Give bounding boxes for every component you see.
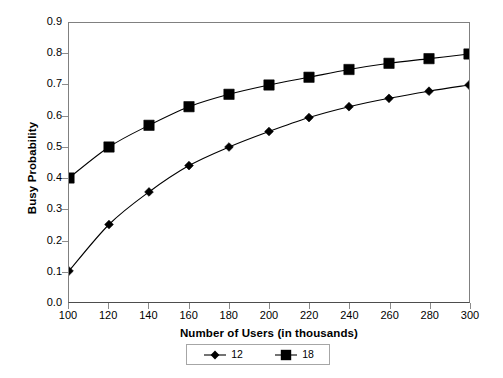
series-line [69, 85, 469, 271]
x-tick-mark [148, 303, 149, 309]
y-tick-label: 0.8 [32, 47, 62, 58]
legend-entry-12: 12 [202, 349, 243, 361]
data-point-marker [384, 58, 394, 68]
x-tick-mark [108, 303, 109, 309]
y-tick-mark [62, 178, 68, 179]
x-tick-mark [229, 303, 230, 309]
y-tick-label: 0.6 [32, 110, 62, 121]
x-axis-title: Number of Users (in thousands) [68, 327, 470, 339]
y-tick-label: 0.9 [32, 16, 62, 27]
x-tick-mark [390, 303, 391, 309]
data-point-marker [184, 102, 194, 112]
x-tick-mark [68, 303, 69, 309]
data-point-marker [385, 94, 394, 103]
data-point-marker [264, 80, 274, 90]
series-12 [69, 81, 469, 276]
legend-entry-18: 18 [273, 349, 314, 361]
y-tick-label: 0.7 [32, 78, 62, 89]
data-point-marker [304, 72, 314, 82]
x-tick-mark [189, 303, 190, 309]
y-tick-mark [62, 147, 68, 148]
series-line [69, 54, 469, 178]
data-point-marker [104, 142, 114, 152]
x-tick-mark [349, 303, 350, 309]
y-tick-label: 0.2 [32, 235, 62, 246]
square-marker-icon [273, 349, 299, 361]
y-axis-tick-labels: 0.90.80.70.60.50.40.30.20.10.0 [30, 0, 62, 378]
y-tick-label: 0.1 [32, 266, 62, 277]
data-point-marker [69, 173, 74, 183]
y-tick-mark [62, 84, 68, 85]
x-tick-mark [269, 303, 270, 309]
diamond-marker-icon [202, 349, 228, 361]
plot-svg [69, 23, 469, 302]
data-point-marker [464, 49, 469, 59]
x-tick-label: 300 [445, 309, 495, 321]
data-point-marker [144, 120, 154, 130]
data-point-marker [265, 127, 274, 136]
y-tick-mark [62, 272, 68, 273]
data-point-marker [225, 143, 234, 152]
x-tick-mark [430, 303, 431, 309]
data-point-marker [344, 64, 354, 74]
plot-area [68, 22, 470, 303]
data-point-marker [424, 53, 434, 63]
data-point-marker [224, 89, 234, 99]
x-tick-mark [470, 303, 471, 309]
y-tick-mark [62, 241, 68, 242]
y-tick-label: 0.5 [32, 141, 62, 152]
data-point-marker [345, 102, 354, 111]
y-tick-label: 0.3 [32, 203, 62, 214]
y-tick-label: 0.4 [32, 172, 62, 183]
data-point-marker [305, 113, 314, 122]
y-tick-label: 0.0 [32, 297, 62, 308]
x-tick-mark [309, 303, 310, 309]
legend-label: 12 [231, 349, 243, 360]
data-point-marker [185, 161, 194, 170]
y-tick-mark [62, 53, 68, 54]
legend-label: 18 [302, 349, 314, 360]
series-18 [69, 49, 469, 183]
chart-legend: 1218 [186, 344, 330, 365]
y-tick-mark [62, 209, 68, 210]
data-point-marker [465, 81, 469, 90]
y-tick-mark [62, 116, 68, 117]
busy-probability-line-chart: Busy Probability 0.90.80.70.60.50.40.30.… [0, 0, 503, 378]
data-point-marker [425, 87, 434, 96]
data-point-marker [145, 188, 154, 197]
